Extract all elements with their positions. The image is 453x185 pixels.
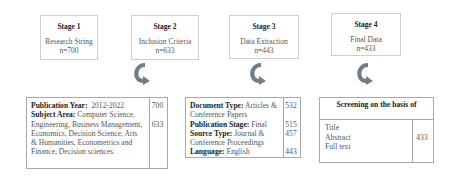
stage-3-desc: Data Extraction (230, 37, 298, 46)
count-515: 515 (282, 120, 300, 129)
screening-item-fulltext: Full text (325, 142, 407, 152)
count-633: 633 (148, 120, 167, 129)
pub-year-value: 2012-2022 (91, 101, 124, 110)
stage-4-box: Stage 4 Final Data n=433 (331, 13, 401, 56)
stage-2-desc: Inclusion Criteria (132, 37, 198, 46)
stage-4-desc: Final Data (332, 35, 400, 44)
extraction-text-cell: Document Type: Articles & Conference Pap… (186, 98, 284, 157)
count-532: 532 (282, 101, 300, 110)
stage-3-title: Stage 3 (230, 22, 298, 31)
inclusion-criteria-table: Publication Year: 2012-2022 Subject Area… (26, 97, 168, 169)
stage-4-count: n=433 (332, 44, 400, 53)
curved-arrow-icon (354, 63, 376, 85)
subject-area-label: Subject Area: (31, 110, 75, 119)
stage-2-count: n=633 (132, 46, 198, 55)
screening-item-abstract: Abstract (325, 133, 407, 143)
data-extraction-table: Document Type: Articles & Conference Pap… (185, 97, 301, 158)
language-value: English (227, 147, 250, 156)
count-443: 443 (282, 147, 300, 156)
pub-stage-label: Publication Stage: (190, 120, 249, 129)
screening-table: Screening on the basis of Title Abstract… (319, 97, 434, 163)
screening-items-cell: Title Abstract Full text (320, 120, 413, 162)
criteria-text-cell: Publication Year: 2012-2022 Subject Area… (27, 98, 150, 168)
stage-1-title: Stage 1 (41, 22, 97, 31)
stage-3-box: Stage 3 Data Extraction n=443 (229, 15, 299, 59)
stage-1-desc: Research String (41, 37, 97, 46)
stage-2-box: Stage 2 Inclusion Criteria n=633 (131, 15, 199, 60)
count-433: 433 (411, 133, 433, 142)
stage-3-count: n=443 (230, 46, 298, 55)
source-type-label: Source Type: (190, 129, 232, 138)
extraction-count-cell: 532 515 457 443 (282, 98, 300, 157)
count-700: 700 (148, 101, 167, 110)
pub-stage-value: Final (251, 120, 267, 129)
count-457: 457 (282, 129, 300, 138)
screening-item-title: Title (325, 123, 407, 133)
doc-type-label: Document Type: (190, 101, 244, 110)
screening-header: Screening on the basis of (320, 98, 433, 120)
stage-4-title: Stage 4 (332, 20, 400, 29)
stage-1-box: Stage 1 Research String n=700 (40, 15, 98, 60)
stage-2-title: Stage 2 (132, 22, 198, 31)
language-label: Language: (190, 147, 225, 156)
curved-arrow-icon (247, 63, 269, 85)
screening-body: Title Abstract Full text 433 (320, 120, 433, 162)
stage-1-count: n=700 (41, 46, 97, 55)
criteria-count-cell: 700 633 (148, 98, 167, 168)
curved-arrow-icon (131, 63, 153, 85)
pub-year-label: Publication Year: (31, 101, 87, 110)
